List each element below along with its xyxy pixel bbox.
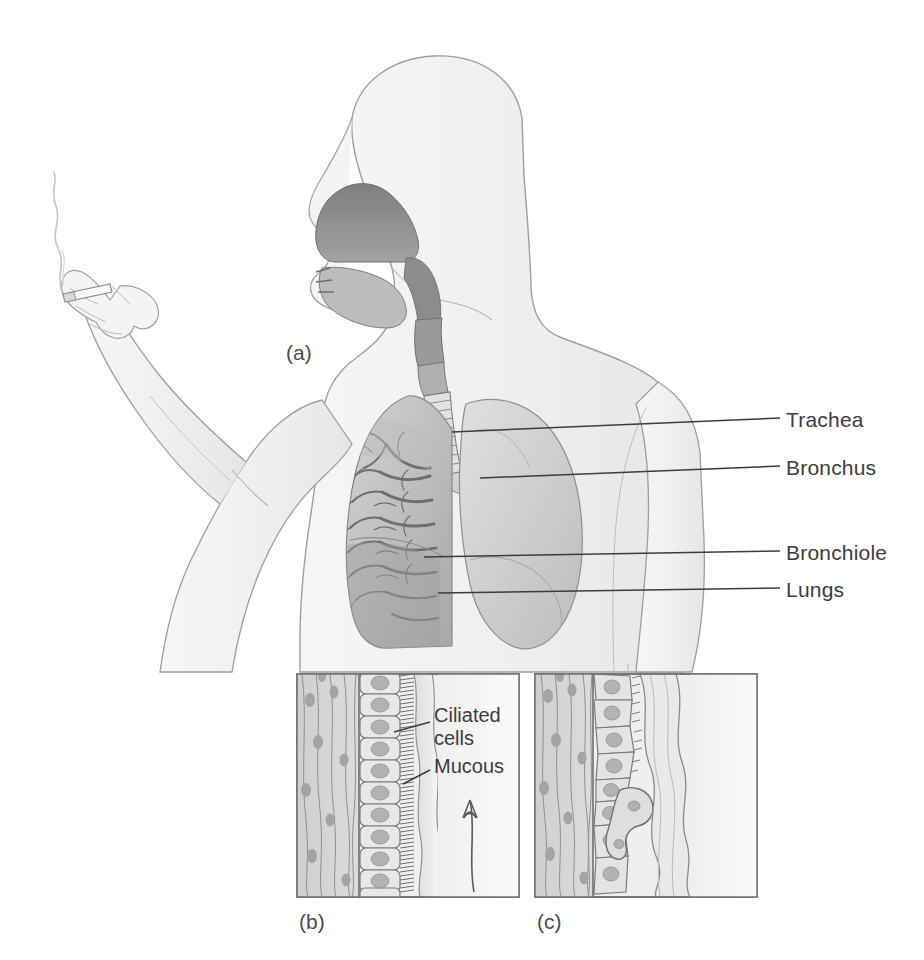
panel-b-ciliated-cells [360, 672, 400, 904]
panel-c-lumen [690, 674, 760, 897]
panel-caption-c: (c) [537, 910, 562, 934]
inset-label-ciliated-cells-line1: Ciliated [434, 704, 501, 727]
pharynx [415, 318, 444, 366]
panel-caption-a: (a) [286, 341, 312, 365]
inset-label-ciliated-cells: Ciliated cells [434, 704, 501, 749]
panel-c-sloughed-cell-nucleus [628, 801, 640, 811]
callout-label-bronchus: Bronchus [786, 456, 876, 480]
callout-label-bronchiole: Bronchiole [786, 541, 887, 565]
figure-illustration [0, 0, 924, 960]
panel-c-sloughed-cell-nucleus-2 [614, 840, 624, 849]
hand-holding-cigarette [62, 270, 159, 338]
inset-panel-c [535, 670, 760, 897]
respiratory-system-figure: Trachea Bronchus Bronchiole Lungs Ciliat… [0, 0, 924, 960]
inset-label-mucous: Mucous [434, 755, 504, 778]
inset-label-ciliated-cells-line2: cells [434, 727, 501, 750]
panel-caption-b: (b) [299, 910, 325, 934]
hand [62, 270, 159, 338]
larynx [418, 362, 448, 396]
callout-label-trachea: Trachea [786, 408, 864, 432]
cigarette-ember [63, 292, 76, 302]
smoke-trail [54, 172, 62, 292]
callout-label-lungs: Lungs [786, 578, 844, 602]
